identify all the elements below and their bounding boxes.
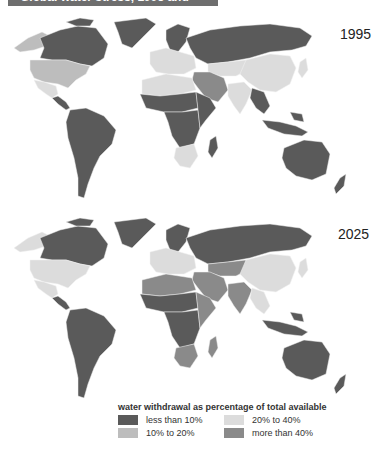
region-central-africa <box>164 310 200 348</box>
region-southern-africa <box>174 144 198 168</box>
legend: water withdrawal as percentage of total … <box>118 402 358 438</box>
legend-grid: less than 10% 20% to 40% 10% to 20% more… <box>118 415 358 438</box>
region-south-america <box>66 308 116 398</box>
region-russia <box>186 24 312 64</box>
legend-label: 10% to 20% <box>146 428 195 438</box>
legend-swatch <box>118 428 138 438</box>
legend-swatch <box>118 415 138 425</box>
region-canada <box>66 218 94 226</box>
region-europe-west <box>150 248 196 274</box>
region-southern-africa <box>174 344 198 368</box>
region-sahel <box>140 92 198 112</box>
world-map-svg <box>0 208 377 408</box>
map-1995: 1995 <box>0 8 377 208</box>
region-central-america <box>52 296 70 310</box>
legend-item: more than 40% <box>224 428 334 438</box>
region-southeast-asia <box>250 288 270 314</box>
region-madagascar <box>208 136 218 158</box>
region-indonesia <box>290 312 304 322</box>
region-japan <box>298 58 308 78</box>
region-greenland <box>114 218 156 248</box>
legend-item: 10% to 20% <box>118 428 224 438</box>
map-year-label: 2025 <box>338 226 369 242</box>
legend-item: 20% to 40% <box>224 415 334 425</box>
legend-swatch <box>224 415 244 425</box>
world-map-svg <box>0 8 377 208</box>
region-australia <box>282 340 330 380</box>
region-greenland <box>114 18 156 48</box>
region-central-africa <box>164 110 200 148</box>
region-australia <box>282 140 330 180</box>
region-indonesia <box>262 320 308 336</box>
region-japan <box>298 258 308 278</box>
region-north-africa <box>142 74 196 96</box>
region-sahel <box>140 292 198 312</box>
region-russia <box>186 224 312 264</box>
legend-label: less than 10% <box>146 415 203 425</box>
legend-label: 20% to 40% <box>252 415 301 425</box>
region-indonesia <box>290 112 304 122</box>
region-southeast-asia <box>250 88 270 114</box>
region-india <box>228 282 252 314</box>
region-new-zealand <box>334 174 346 194</box>
region-indonesia <box>262 120 308 136</box>
legend-item: less than 10% <box>118 415 224 425</box>
legend-title: water withdrawal as percentage of total … <box>118 402 358 412</box>
region-europe-west <box>150 48 196 74</box>
map-2025: 2025 <box>0 208 377 408</box>
region-madagascar <box>208 336 218 358</box>
region-south-america <box>66 108 116 198</box>
map-title: Global water stress, 1995 and 2025 <box>8 0 218 6</box>
region-canada <box>66 18 94 26</box>
map-year-label: 1995 <box>340 26 371 42</box>
region-central-america <box>52 96 70 110</box>
region-north-africa <box>142 274 196 296</box>
legend-label: more than 40% <box>252 428 313 438</box>
legend-swatch <box>224 428 244 438</box>
region-india <box>228 82 252 114</box>
region-new-zealand <box>334 374 346 394</box>
